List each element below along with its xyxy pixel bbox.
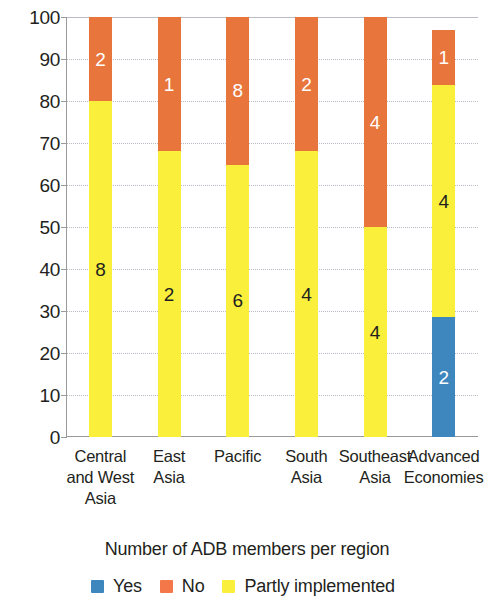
bar-segment-value-label: 8: [95, 260, 105, 279]
y-axis-tick-label: 10: [2, 386, 60, 405]
bar-segment-value-label: 2: [164, 285, 174, 304]
legend-swatch-icon: [160, 580, 173, 593]
category-label-line: Asia: [129, 467, 210, 488]
y-axis-tick-label: 40: [2, 260, 60, 279]
legend-label: Partly implemented: [244, 576, 394, 596]
bar-segment[interactable]: 8: [226, 17, 249, 165]
bars-layer: 8221684244241: [66, 17, 478, 437]
bar-column[interactable]: 21: [158, 17, 181, 437]
bar-segment[interactable]: 2: [432, 317, 455, 437]
category-label-line: Economies: [403, 467, 484, 488]
bar-segment-value-label: 2: [301, 75, 311, 94]
category-label-line: Advanced: [403, 446, 484, 467]
chart-legend: YesNoPartly implemented: [0, 576, 494, 596]
x-axis-category-labels: Centraland WestAsiaEastAsiaPacificSouthA…: [66, 446, 478, 526]
category-label-line: Asia: [60, 488, 141, 509]
bar-segment-value-label: 8: [232, 81, 242, 100]
y-axis-tick: [61, 437, 67, 438]
bar-segment-value-label: 4: [370, 323, 380, 342]
y-axis-tick-label: 30: [2, 302, 60, 321]
bar-segment-value-label: 4: [370, 113, 380, 132]
y-axis-tick-label: 0: [2, 428, 60, 447]
x-axis-title: Number of ADB members per region: [0, 538, 494, 560]
y-axis-tick-label: 60: [2, 176, 60, 195]
bar-segment[interactable]: 4: [432, 85, 455, 317]
bar-segment-value-label: 4: [438, 192, 448, 211]
y-axis-tick-label: 100: [2, 8, 60, 27]
legend-swatch-icon: [222, 580, 235, 593]
legend-label: Yes: [113, 576, 142, 596]
bar-segment[interactable]: 4: [364, 17, 387, 227]
bar-column[interactable]: 82: [89, 17, 112, 437]
bar-column[interactable]: 42: [295, 17, 318, 437]
bar-segment-value-label: 1: [164, 75, 174, 94]
stacked-bar-chart: 1009080706050403020100 8221684244241 Cen…: [0, 0, 494, 604]
bar-segment[interactable]: 2: [295, 17, 318, 151]
bar-segment[interactable]: 6: [226, 165, 249, 437]
bar-segment[interactable]: 4: [295, 151, 318, 437]
y-axis-tick-label: 70: [2, 134, 60, 153]
y-axis-tick-label: 80: [2, 92, 60, 111]
bar-segment-value-label: 2: [438, 368, 448, 387]
bar-segment[interactable]: 2: [89, 17, 112, 101]
bar-segment[interactable]: 8: [89, 101, 112, 437]
bar-segment-value-label: 1: [438, 48, 448, 67]
bar-column[interactable]: 68: [226, 17, 249, 437]
legend-item[interactable]: No: [160, 576, 205, 596]
bar-segment-value-label: 6: [232, 291, 242, 310]
legend-swatch-icon: [91, 580, 104, 593]
x-axis-category-label: AdvancedEconomies: [403, 446, 484, 488]
y-axis-tick-label: 50: [2, 218, 60, 237]
legend-label: No: [182, 576, 205, 596]
bar-segment-value-label: 2: [95, 50, 105, 69]
bar-segment[interactable]: 4: [364, 227, 387, 437]
bar-segment[interactable]: 1: [158, 17, 181, 151]
y-axis-tick-label: 90: [2, 50, 60, 69]
bar-segment[interactable]: 1: [432, 30, 455, 86]
bar-segment-value-label: 4: [301, 285, 311, 304]
bar-segment[interactable]: 2: [158, 151, 181, 437]
bar-column[interactable]: 241: [432, 17, 455, 437]
bar-column[interactable]: 44: [364, 17, 387, 437]
y-axis-tick-label: 20: [2, 344, 60, 363]
y-axis-tick-labels: 1009080706050403020100: [0, 17, 60, 437]
legend-item[interactable]: Yes: [91, 576, 142, 596]
legend-item[interactable]: Partly implemented: [222, 576, 394, 596]
